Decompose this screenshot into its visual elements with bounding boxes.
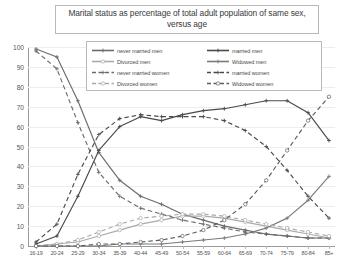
x-axis-tick-label: 80-84: [302, 250, 315, 256]
legend-label: married men: [232, 48, 262, 54]
x-axis-tick-label: 45-49: [155, 250, 168, 256]
legend-swatch-icon: [207, 69, 229, 76]
y-axis-tick-label: 50: [17, 143, 24, 150]
y-axis-tick-label: 0: [20, 243, 24, 250]
legend-item[interactable]: Widowed women: [207, 80, 316, 87]
legend-item[interactable]: never married women: [92, 69, 201, 76]
x-axis-tick-label: 60-64: [218, 250, 231, 256]
legend-item[interactable]: Divorced men: [92, 58, 201, 65]
legend-label: Widowed women: [232, 81, 273, 87]
y-axis-tick-label: 20: [17, 203, 24, 210]
legend-label: Divorced men: [117, 59, 150, 65]
x-axis-tick-label: 75-79: [281, 250, 294, 256]
x-axis-tick-label: 20-24: [50, 250, 63, 256]
chart-container: Marital status as percentage of total ad…: [0, 0, 342, 274]
legend-item[interactable]: never married men: [92, 47, 201, 54]
y-axis-tick-label: 60: [17, 123, 24, 130]
legend-label: never married women: [117, 70, 169, 76]
y-axis-tick-label: 80: [17, 83, 24, 90]
series-married-women: [34, 113, 331, 244]
legend-item[interactable]: married men: [207, 47, 316, 54]
y-axis-tick-label: 40: [17, 163, 24, 170]
legend-item[interactable]: Widowed men: [207, 58, 316, 65]
y-axis-tick-label: 100: [13, 44, 24, 51]
legend-item[interactable]: married women: [207, 69, 316, 76]
x-axis-tick-label: 35-39: [113, 250, 126, 256]
legend-swatch-icon: [92, 80, 114, 87]
y-axis-tick-label: 70: [17, 103, 24, 110]
chart-legend: never married menmarried menDivorced men…: [86, 41, 322, 91]
legend-label: Widowed men: [232, 59, 266, 65]
y-axis-tick-label: 10: [17, 223, 24, 230]
x-axis-tick-label: 85+: [325, 250, 334, 256]
legend-swatch-icon: [207, 47, 229, 54]
chart-title: Marital status as percentage of total ad…: [55, 5, 319, 34]
legend-label: never married men: [117, 48, 162, 54]
legend-swatch-icon: [92, 69, 114, 76]
legend-swatch-icon: [207, 58, 229, 65]
legend-swatch-icon: [92, 58, 114, 65]
x-axis-tick-label: 25-29: [71, 250, 84, 256]
y-axis-tick-label: 90: [17, 63, 24, 70]
x-axis-tick-label: 40-44: [134, 250, 147, 256]
x-axis-tick-label: 30-34: [92, 250, 105, 256]
legend-item[interactable]: Divorced women: [92, 80, 201, 87]
x-axis-tick-label: 16-19: [29, 250, 42, 256]
legend-swatch-icon: [207, 80, 229, 87]
y-axis-tick-label: 30: [17, 183, 24, 190]
x-axis-tick-label: 55-59: [197, 250, 210, 256]
legend-swatch-icon: [92, 47, 114, 54]
x-axis-tick-label: 70-74: [260, 250, 273, 256]
x-axis-tick-label: 50-54: [176, 250, 189, 256]
x-axis-tick-label: 65-69: [239, 250, 252, 256]
legend-label: married women: [232, 70, 269, 76]
legend-label: Divorced women: [117, 81, 157, 87]
